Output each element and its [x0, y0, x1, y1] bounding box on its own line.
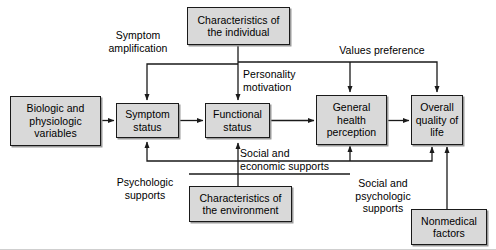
edge-label-psychologic-supports: Psychologic supports — [104, 176, 186, 201]
node-characteristics-of-the-individual[interactable]: Characteristics of the individual — [187, 7, 290, 45]
node-overall-quality-of-life[interactable]: Overall quality of life — [411, 95, 463, 145]
node-symptom-label: Symptom status — [117, 108, 178, 133]
node-individual-label: Characteristics of the individual — [188, 14, 289, 39]
edge-individual-to-symptom — [147, 64, 238, 100]
node-symptom-status[interactable]: Symptom status — [116, 103, 179, 138]
edge-environment-to-symptom — [147, 142, 238, 161]
node-functional-status[interactable]: Functional status — [205, 103, 270, 138]
node-general-health-perception[interactable]: General health perception — [316, 95, 387, 145]
node-functional-label: Functional status — [206, 108, 269, 133]
node-general-label: General health perception — [317, 101, 386, 139]
node-characteristics-of-the-environment[interactable]: Characteristics of the environment — [189, 186, 292, 222]
node-environment-label: Characteristics of the environment — [190, 192, 291, 217]
edge-label-social-and-economic-supports: Social and economic supports — [240, 147, 336, 172]
node-biologic-label: Biologic and physiologic variables — [11, 102, 100, 140]
node-nonmedical-label: Nonmedical factors — [412, 215, 486, 240]
edge-label-personality-motivation: Personality motivation — [243, 68, 315, 93]
node-overall-label: Overall quality of life — [412, 101, 462, 139]
edge-label-symptom-amplification: Symptom amplification — [92, 29, 184, 54]
node-biologic-and-physiologic-variables[interactable]: Biologic and physiologic variables — [10, 96, 101, 146]
flow-diagram: Biologic and physiologic variables Sympt… — [0, 0, 496, 250]
edge-label-social-and-psychologic-supports: Social and psychologic supports — [340, 177, 426, 215]
edge-label-values-preference: Values preference — [330, 44, 434, 57]
